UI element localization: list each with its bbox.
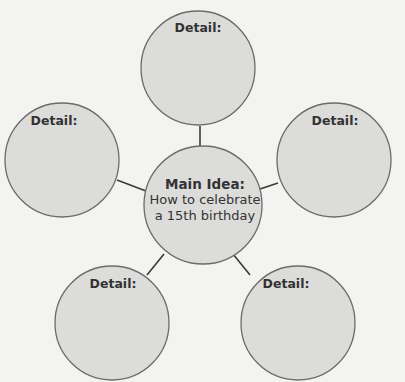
connector-bottom-right <box>233 254 250 275</box>
main-idea-line-1: How to celebrate <box>145 192 265 208</box>
connector-bottom-left <box>147 254 164 275</box>
main-idea-label: Main Idea: How to celebrate a 15th birth… <box>145 176 265 224</box>
detail-label-top: Detail: <box>158 20 238 35</box>
detail-label-right: Detail: <box>295 113 375 128</box>
detail-label-left: Detail: <box>14 113 94 128</box>
detail-label-bottom-left: Detail: <box>73 276 153 291</box>
connector-left <box>117 180 146 191</box>
main-idea-line-2: a 15th birthday <box>145 208 265 224</box>
detail-label-bottom-right: Detail: <box>246 276 326 291</box>
main-idea-title: Main Idea: <box>145 176 265 192</box>
idea-web-diagram: Detail: Detail: Detail: Detail: Detail: … <box>0 0 405 382</box>
